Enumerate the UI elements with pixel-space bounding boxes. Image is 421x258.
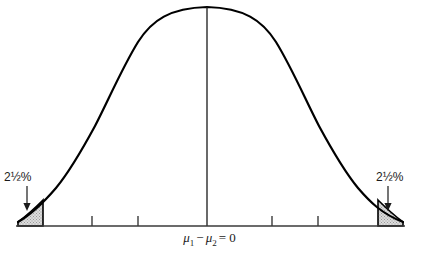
distribution-plot <box>0 0 421 258</box>
right-tail-percent-label: 2½% <box>376 170 403 184</box>
mu-two-subscript: 2 <box>212 238 217 248</box>
left-tail-arrow <box>23 186 30 211</box>
equals-zero: = 0 <box>217 230 238 245</box>
minus-operator: − <box>194 230 205 245</box>
normal-distribution-figure: 2½% 2½% μ1−μ2= 0 <box>0 0 421 258</box>
normal-curve <box>18 7 403 222</box>
left-tail-percent-label: 2½% <box>4 170 31 184</box>
center-axis-label: μ1−μ2= 0 <box>0 230 421 248</box>
